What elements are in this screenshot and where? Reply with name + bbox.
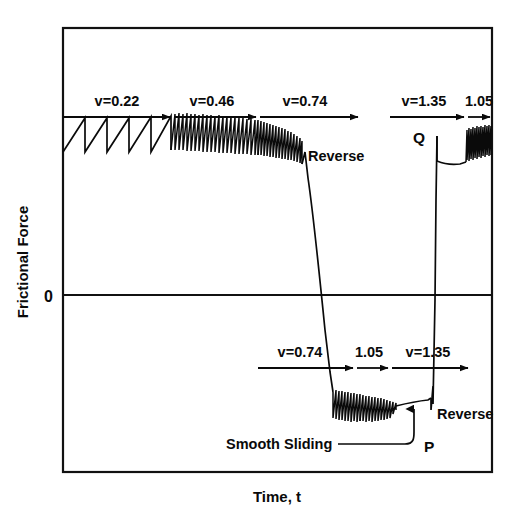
y-axis-label: Frictional Force: [14, 206, 31, 319]
trace-segment-reverse-v074: [333, 390, 360, 422]
trace-segment-v046: [171, 113, 258, 155]
velocity-label-group-lower: v=0.74 1.05 v=1.35: [278, 344, 451, 360]
point-p-label: P: [424, 438, 434, 455]
velocity-label-upper-4: v=1.35: [402, 93, 447, 109]
velocity-label-lower-2: 1.05: [355, 344, 383, 360]
velocity-label-group-upper: v=0.22 v=0.46 v=0.74 v=1.35 1.05: [95, 93, 494, 109]
trace-segment-reverse-v105: [360, 395, 396, 422]
smooth-sliding-leader-line: [338, 432, 414, 444]
friction-figure: v=0.22 v=0.46 v=0.74 v=1.35 1.05 v=0.74 …: [0, 0, 521, 514]
trace-segment-forward-plateau: [437, 136, 466, 164]
point-q-label: Q: [413, 129, 425, 146]
trace-segment-smooth-sliding: [396, 398, 431, 406]
velocity-label-upper-1: v=0.22: [95, 93, 140, 109]
reverse-label-upper: Reverse: [308, 148, 364, 164]
x-axis-label: Time, t: [253, 488, 301, 505]
velocity-label-lower-3: v=1.35: [406, 344, 451, 360]
velocity-label-upper-3: v=0.74: [283, 93, 328, 109]
velocity-label-upper-2: v=0.46: [190, 93, 235, 109]
reverse-label-lower: Reverse: [437, 406, 493, 422]
smooth-sliding-label: Smooth Sliding: [226, 436, 332, 452]
trace-segment-v074: [258, 121, 302, 164]
velocity-label-upper-5: 1.05: [465, 93, 493, 109]
trace-segment-forward-v105: [466, 125, 491, 162]
figure-canvas: v=0.22 v=0.46 v=0.74 v=1.35 1.05 v=0.74 …: [0, 0, 521, 514]
force-trace: [63, 113, 491, 422]
y-axis-zero-tick: 0: [44, 288, 53, 305]
trace-segment-v022: [63, 116, 171, 152]
velocity-label-lower-1: v=0.74: [278, 344, 323, 360]
